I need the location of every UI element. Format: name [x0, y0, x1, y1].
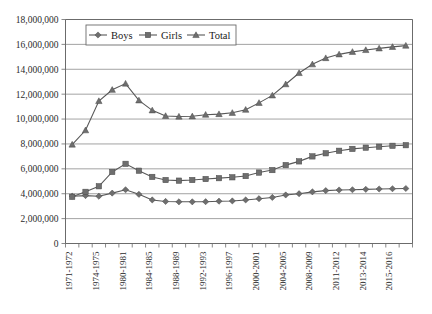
y-axis-tick-label: 0	[54, 239, 59, 249]
y-axis-tick-label: 6,000,000	[21, 164, 59, 174]
data-point-girls	[296, 159, 301, 164]
y-axis-tick-label: 18,000,000	[16, 15, 59, 25]
data-point-girls	[283, 162, 288, 167]
plot-background	[66, 20, 413, 244]
data-point-girls	[176, 178, 181, 183]
x-axis-tick-label: 1988-1989	[171, 251, 181, 290]
x-axis-tick-label: 1992-1993	[198, 251, 208, 290]
data-point-girls	[310, 154, 315, 159]
legend-label-total: Total	[209, 30, 231, 41]
x-axis-tick-label: 1984-1985	[144, 251, 154, 290]
data-point-girls	[350, 146, 355, 151]
data-point-girls	[123, 161, 128, 166]
data-point-girls	[150, 174, 155, 179]
data-point-girls	[203, 176, 208, 181]
data-point-girls	[336, 148, 341, 153]
data-point-girls	[363, 145, 368, 150]
data-point-girls	[136, 168, 141, 173]
data-point-girls	[323, 151, 328, 156]
y-axis-tick-label: 4,000,000	[21, 189, 59, 199]
data-point-girls	[243, 173, 248, 178]
chart-container: 02,000,0004,000,0006,000,0008,000,00010,…	[0, 0, 432, 314]
y-axis-tick-label: 12,000,000	[16, 90, 59, 100]
data-point-girls	[69, 194, 74, 199]
legend-marker-square-icon	[145, 32, 150, 37]
x-axis-tick-label: 1980-1981	[118, 252, 128, 291]
x-axis-tick-label: 2011-2012	[331, 252, 341, 291]
x-axis-tick-label: 2013-2014	[358, 251, 368, 290]
data-point-girls	[216, 175, 221, 180]
y-axis-tick-label: 10,000,000	[16, 114, 59, 124]
line-chart: 02,000,0004,000,0006,000,0008,000,00010,…	[0, 0, 432, 314]
x-axis-tick-label: 1974-1975	[91, 251, 101, 290]
data-point-girls	[256, 170, 261, 175]
data-point-girls	[83, 189, 88, 194]
data-point-girls	[96, 184, 101, 189]
x-axis-tick-label: 2015-2016	[384, 251, 394, 290]
data-point-girls	[110, 169, 115, 174]
x-axis-tick-label: 2004-2005	[278, 251, 288, 290]
data-point-girls	[230, 175, 235, 180]
y-axis-tick-label: 16,000,000	[16, 40, 59, 50]
y-axis-tick-label: 8,000,000	[21, 139, 59, 149]
legend-label-boys: Boys	[111, 30, 133, 41]
y-axis-tick-label: 2,000,000	[21, 214, 59, 224]
x-axis-tick-label: 1971-1972	[64, 252, 74, 291]
data-point-girls	[163, 177, 168, 182]
data-point-girls	[190, 177, 195, 182]
y-axis-tick-label: 14,000,000	[16, 65, 59, 75]
data-point-girls	[376, 144, 381, 149]
x-axis-tick-label: 1996-1997	[224, 251, 234, 290]
legend-label-girls: Girls	[161, 30, 182, 41]
data-point-girls	[390, 143, 395, 148]
data-point-girls	[403, 142, 408, 147]
x-axis-tick-label: 2000-2001	[251, 252, 261, 291]
x-axis-tick-label: 2008-2009	[304, 251, 314, 290]
data-point-girls	[270, 167, 275, 172]
